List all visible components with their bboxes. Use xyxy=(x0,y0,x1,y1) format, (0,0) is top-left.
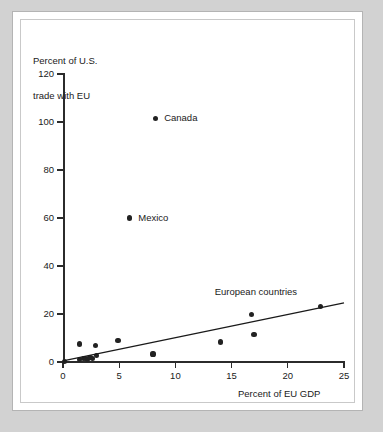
y-axis-tick-label-120: 120 xyxy=(14,68,54,79)
y-axis-tick-20 xyxy=(57,313,63,314)
mexico-point-label: Mexico xyxy=(138,212,168,223)
y-axis-line xyxy=(63,73,65,363)
data-point xyxy=(115,338,120,343)
y-axis-tick-label-20: 20 xyxy=(14,308,54,319)
y-axis-tick-40 xyxy=(57,265,63,266)
y-axis-tick-label-60: 60 xyxy=(14,212,54,223)
y-axis-tick-60 xyxy=(57,217,63,218)
y-axis-tick-80 xyxy=(57,169,63,170)
data-point xyxy=(318,304,323,309)
x-axis-tick-label-20: 20 xyxy=(273,370,303,381)
data-point xyxy=(62,359,67,364)
scatter-chart: Percent of U.S. trade with EU Percent of… xyxy=(0,0,383,432)
y-axis-tick-label-100: 100 xyxy=(14,116,54,127)
y-axis-title-line2: trade with EU xyxy=(33,90,97,102)
trendline xyxy=(63,303,344,361)
data-point xyxy=(94,353,99,358)
data-point-canada xyxy=(153,116,158,121)
x-axis-line xyxy=(62,361,345,363)
european-countries-annotation: European countries xyxy=(215,286,297,297)
y-axis-tick-label-0: 0 xyxy=(14,356,54,367)
y-axis-tick-label-80: 80 xyxy=(14,164,54,175)
x-axis-title: Percent of EU GDP xyxy=(238,388,320,400)
x-axis-tick-label-5: 5 xyxy=(104,370,134,381)
data-point-mexico xyxy=(127,215,132,220)
canada-point-label: Canada xyxy=(164,112,197,123)
y-axis-tick-label-40: 40 xyxy=(14,260,54,271)
x-axis-tick-label-25: 25 xyxy=(329,370,359,381)
figure-root: Percent of U.S. trade with EU Percent of… xyxy=(0,0,383,432)
x-axis-tick-label-0: 0 xyxy=(48,370,78,381)
data-point xyxy=(249,312,254,317)
data-point xyxy=(93,343,98,348)
data-point xyxy=(251,332,256,337)
data-point xyxy=(218,339,223,344)
y-axis-title-line1: Percent of U.S. xyxy=(33,55,97,67)
x-axis-tick-label-10: 10 xyxy=(160,370,190,381)
x-axis-tick-25 xyxy=(343,362,344,368)
data-point xyxy=(77,341,82,346)
y-axis-tick-120 xyxy=(57,73,63,74)
x-axis-tick-5 xyxy=(119,362,120,368)
x-axis-tick-15 xyxy=(231,362,232,368)
x-axis-tick-20 xyxy=(287,362,288,368)
x-axis-tick-label-15: 15 xyxy=(217,370,247,381)
y-axis-tick-100 xyxy=(57,121,63,122)
x-axis-tick-10 xyxy=(175,362,176,368)
data-point xyxy=(150,351,155,356)
